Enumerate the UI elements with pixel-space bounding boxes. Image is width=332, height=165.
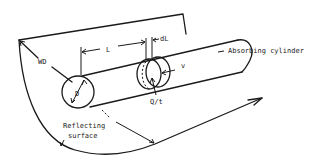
l-dimension: L xyxy=(81,38,146,75)
reflecting-label-line1: Reflecting xyxy=(63,122,105,130)
d-label: D xyxy=(75,90,79,98)
wd-label: WD xyxy=(38,58,46,66)
qt-label: Q/t xyxy=(150,98,163,106)
v-label: v xyxy=(181,62,185,70)
focus-ray xyxy=(116,122,154,143)
reflecting-surface-callout: Reflecting surface xyxy=(60,122,105,146)
wd-dimension: WD xyxy=(20,41,72,82)
absorbing-cylinder-callout: Absorbing cylinder xyxy=(218,47,304,55)
absorbing-cylinder-label: Absorbing cylinder xyxy=(228,47,304,55)
dl-dimension: dL xyxy=(152,35,168,58)
reflecting-label-line2: surface xyxy=(68,132,98,140)
dl-label: dL xyxy=(160,35,168,43)
l-label: L xyxy=(106,46,110,54)
trough-collector-diagram: WD D Q/t xyxy=(0,0,332,165)
